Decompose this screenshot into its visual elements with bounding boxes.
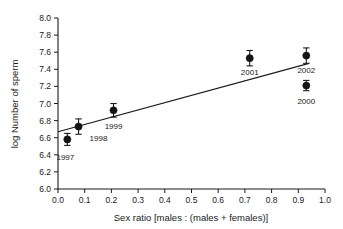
data-point-marker bbox=[246, 55, 253, 62]
axes-group bbox=[58, 18, 325, 189]
x-axis-title: Sex ratio [males : (males + females)] bbox=[114, 212, 268, 223]
y-tick-label: 8.0 bbox=[39, 13, 51, 23]
data-point-label: 1998 bbox=[90, 134, 108, 143]
chart-figure: 0.00.10.20.30.40.50.60.70.80.91.0 6.06.2… bbox=[0, 0, 343, 229]
x-tick-label: 0.3 bbox=[132, 195, 144, 205]
y-axis-title: log Number of sperm bbox=[9, 60, 20, 149]
x-tick-label: 1.0 bbox=[319, 195, 331, 205]
y-tick-label: 7.0 bbox=[39, 99, 51, 109]
y-tick-label: 7.8 bbox=[39, 30, 51, 40]
regression-line bbox=[58, 63, 309, 131]
x-tick-label: 0.4 bbox=[159, 195, 171, 205]
axis-lines bbox=[58, 18, 325, 189]
y-axis-tick-labels: 6.06.26.46.66.87.07.27.47.67.88.0 bbox=[39, 13, 51, 194]
data-point-label: 1997 bbox=[56, 153, 74, 162]
y-tick-label: 6.0 bbox=[39, 184, 51, 194]
x-tick-label: 0.5 bbox=[186, 195, 198, 205]
x-tick-label: 0.6 bbox=[212, 195, 224, 205]
y-tick-label: 6.8 bbox=[39, 116, 51, 126]
x-tick-label: 0.2 bbox=[105, 195, 117, 205]
x-axis-ticks bbox=[58, 189, 325, 193]
data-point-marker bbox=[75, 123, 82, 130]
y-tick-label: 7.2 bbox=[39, 81, 51, 91]
data-point-marker bbox=[303, 52, 310, 59]
x-tick-label: 0.7 bbox=[239, 195, 251, 205]
y-tick-label: 6.2 bbox=[39, 167, 51, 177]
data-point-label: 2002 bbox=[297, 66, 315, 75]
x-tick-label: 0.9 bbox=[292, 195, 304, 205]
x-tick-label: 0.1 bbox=[79, 195, 91, 205]
data-point-label: 2000 bbox=[297, 97, 315, 106]
data-point-label: 2001 bbox=[241, 68, 259, 77]
scatter-plot: 0.00.10.20.30.40.50.60.70.80.91.0 6.06.2… bbox=[0, 0, 343, 229]
y-tick-label: 6.6 bbox=[39, 133, 51, 143]
data-point-marker bbox=[303, 82, 310, 89]
y-tick-label: 7.6 bbox=[39, 47, 51, 57]
data-point-marker bbox=[110, 107, 117, 114]
data-point-labels-group: 199719981999200120022000 bbox=[56, 66, 315, 163]
y-tick-label: 7.4 bbox=[39, 64, 51, 74]
x-axis-tick-labels: 0.00.10.20.30.40.50.60.70.80.91.0 bbox=[52, 195, 331, 205]
data-point-marker bbox=[64, 136, 71, 143]
y-tick-label: 6.4 bbox=[39, 150, 51, 160]
data-point-label: 1999 bbox=[105, 122, 123, 131]
data-points-group bbox=[64, 52, 310, 143]
y-axis-ticks bbox=[54, 18, 58, 189]
x-tick-label: 0.0 bbox=[52, 195, 64, 205]
x-tick-label: 0.8 bbox=[266, 195, 278, 205]
